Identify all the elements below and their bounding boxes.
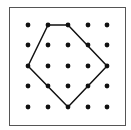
grid-dot (26, 84, 31, 89)
grid-dot (66, 43, 71, 48)
grid-dot (46, 64, 51, 69)
grid-dot (26, 23, 31, 28)
grid-dot (66, 64, 71, 69)
grid-dot (105, 43, 110, 48)
grid-dot (86, 105, 91, 110)
grid-dot (86, 23, 91, 28)
grid-dot (86, 64, 91, 69)
grid-dot (105, 84, 110, 89)
grid-dot (105, 23, 110, 28)
grid-dot (105, 105, 110, 110)
geoboard-diagram (0, 0, 131, 130)
grid-dot (66, 84, 71, 89)
grid-dot (46, 43, 51, 48)
grid-dot (46, 105, 51, 110)
grid-dot (26, 43, 31, 48)
grid-dot (26, 105, 31, 110)
